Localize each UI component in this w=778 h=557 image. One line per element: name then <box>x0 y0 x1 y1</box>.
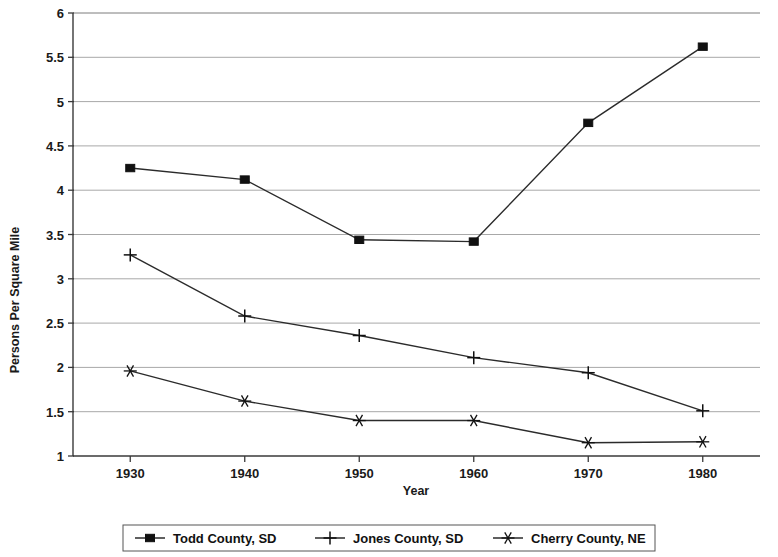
y-tick-label: 5 <box>57 95 64 110</box>
x-tick-label: 1940 <box>230 466 259 481</box>
y-tick-label: 3 <box>57 272 64 287</box>
chart-canvas: 11.522.533.544.555.56 193019401950196019… <box>0 0 778 557</box>
y-tick-labels: 11.522.533.544.555.56 <box>46 6 65 464</box>
y-axis-title: Persons Per Square Mile <box>8 227 22 374</box>
y-tick-label: 1.5 <box>46 405 64 420</box>
y-tick-label: 2.5 <box>46 316 64 331</box>
legend-item-1[interactable]: Todd County, SD <box>135 531 277 546</box>
y-tick-label: 4 <box>57 183 65 198</box>
legend-item-label: Todd County, SD <box>173 531 277 546</box>
x-tickmarks <box>130 456 703 462</box>
marker-filled-square <box>146 534 155 541</box>
y-tick-label: 3.5 <box>46 228 64 243</box>
x-tick-label: 1980 <box>688 466 717 481</box>
marker-filled-square <box>355 236 364 243</box>
gridlines <box>73 13 760 412</box>
legend-item-2[interactable]: Jones County, SD <box>315 531 463 546</box>
marker-filled-square <box>584 119 593 126</box>
series-line <box>130 255 703 411</box>
x-tick-label: 1950 <box>345 466 374 481</box>
series-3 <box>124 365 710 448</box>
y-tick-label: 5.5 <box>46 50 64 65</box>
legend-item-label: Cherry County, NE <box>531 531 646 546</box>
y-tick-label: 6 <box>57 6 64 21</box>
line-chart: 11.522.533.544.555.56 193019401950196019… <box>0 0 778 557</box>
legend-item-label: Jones County, SD <box>353 531 463 546</box>
series-layer <box>124 43 710 448</box>
series-line <box>130 47 703 242</box>
series-1 <box>126 43 708 245</box>
legend-item-3[interactable]: Cherry County, NE <box>493 531 646 546</box>
marker-filled-square <box>698 43 707 50</box>
marker-filled-square <box>240 176 249 183</box>
x-tick-label: 1970 <box>574 466 603 481</box>
y-tick-label: 1 <box>57 449 64 464</box>
chart-legend: Todd County, SDJones County, SDCherry Co… <box>123 525 655 551</box>
plot-area: 11.522.533.544.555.56 193019401950196019… <box>46 6 760 481</box>
marker-filled-square <box>469 238 478 245</box>
x-tick-labels: 193019401950196019701980 <box>116 466 717 481</box>
x-tick-label: 1960 <box>459 466 488 481</box>
x-axis-title: Year <box>403 484 430 498</box>
y-tick-label: 2 <box>57 360 64 375</box>
marker-filled-square <box>126 164 135 171</box>
y-tick-label: 4.5 <box>46 139 64 154</box>
x-tick-label: 1930 <box>116 466 145 481</box>
